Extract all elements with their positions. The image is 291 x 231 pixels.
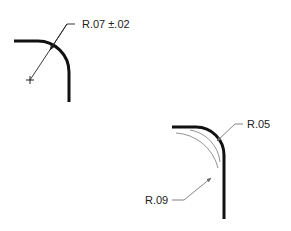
max-radius-label: R.05 (247, 118, 270, 130)
radius-label: R.07 ±.02 (82, 18, 130, 30)
leader-arrow (50, 24, 67, 50)
fillet-edge (14, 41, 69, 102)
leader-line-r05 (217, 124, 243, 141)
radius-example-2: R.05 R.09 (145, 118, 270, 219)
max-radius-arc (176, 133, 218, 168)
min-radius-label: R.09 (145, 194, 168, 206)
radius-dimension-diagram: R.07 ±.02 R.05 R.09 (0, 0, 291, 231)
radius-example-1: R.07 ±.02 (14, 18, 130, 102)
fillet-edge-actual (172, 127, 224, 219)
leader-line-r09 (172, 178, 211, 200)
